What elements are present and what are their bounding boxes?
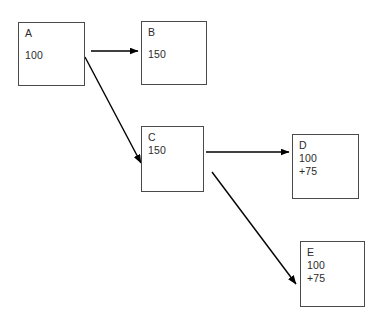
node-value-e: 100 (307, 259, 364, 272)
diagram-canvas: A100B150C150D100+75E100+75 (0, 0, 386, 325)
arrow-c-to-e (212, 172, 296, 284)
node-label-a: A (25, 27, 84, 40)
node-value-c: 150 (148, 144, 203, 157)
node-extra-d: +75 (299, 165, 358, 178)
node-value-b: 150 (148, 48, 206, 61)
node-box-a[interactable]: A100 (18, 22, 85, 86)
node-label-c: C (148, 131, 203, 144)
node-label-e: E (307, 246, 364, 259)
node-box-c[interactable]: C150 (141, 126, 204, 192)
node-box-b[interactable]: B150 (141, 21, 207, 85)
node-label-b: B (148, 26, 206, 39)
node-box-e[interactable]: E100+75 (300, 241, 365, 307)
node-value-a: 100 (25, 49, 84, 62)
node-extra-e: +75 (307, 272, 364, 285)
node-label-d: D (299, 139, 358, 152)
node-box-d[interactable]: D100+75 (292, 134, 359, 199)
arrow-a-to-c (85, 57, 141, 163)
node-value-d: 100 (299, 152, 358, 165)
